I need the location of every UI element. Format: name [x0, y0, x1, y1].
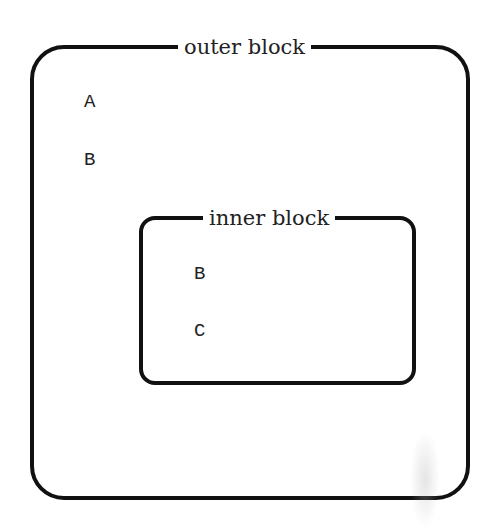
outer-item-a: A: [84, 93, 95, 112]
outer-item-b: B: [84, 151, 95, 170]
outer-block-label: outer block: [178, 37, 311, 58]
inner-block-label: inner block: [203, 208, 335, 229]
inner-item-b: B: [194, 265, 205, 284]
inner-item-c: C: [194, 322, 205, 341]
inner-block: [139, 216, 416, 385]
scan-smudge: [410, 430, 440, 529]
